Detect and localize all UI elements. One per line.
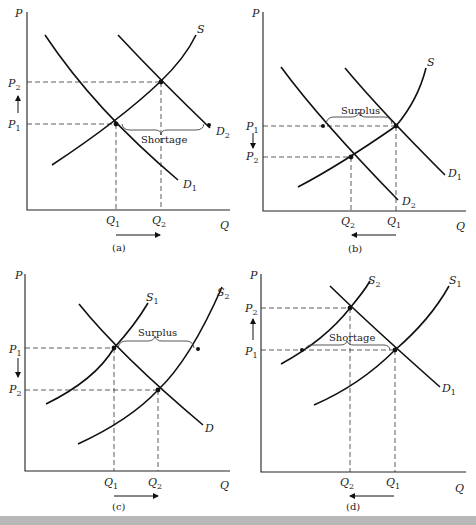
svg-text:S1: S1: [449, 274, 462, 289]
panel-a: P Q Shortage S D2 D1 P2 P1 Q1 Q2 (a): [7, 7, 230, 253]
caption-c: (c): [112, 501, 126, 512]
svg-text:Q1: Q1: [106, 214, 120, 229]
svg-text:P2: P2: [8, 383, 22, 398]
svg-text:D1: D1: [182, 178, 197, 193]
svg-text:D1: D1: [441, 382, 456, 397]
svg-text:P2: P2: [244, 302, 258, 317]
svg-text:P: P: [249, 269, 258, 282]
bottom-divider: [0, 516, 476, 525]
svg-text:Q: Q: [220, 479, 229, 492]
svg-text:Q2: Q2: [148, 476, 162, 491]
svg-text:Q: Q: [456, 220, 465, 233]
caption-d: (d): [346, 501, 360, 512]
svg-text:S: S: [427, 56, 435, 69]
svg-text:P: P: [251, 7, 260, 20]
surplus-label: Surplus: [138, 327, 177, 338]
svg-text:P: P: [14, 269, 23, 282]
panel-c: P Q Surplus S1 S2 D P1 P2 Q1 Q2 (c): [8, 269, 230, 512]
svg-text:P1: P1: [7, 118, 21, 133]
caption-b: (b): [348, 243, 362, 254]
svg-text:D: D: [204, 422, 214, 435]
svg-text:P2: P2: [7, 77, 21, 92]
caption-a: (a): [112, 242, 126, 253]
svg-text:S2: S2: [368, 274, 381, 289]
svg-text:Q2: Q2: [152, 214, 166, 229]
svg-text:Q2: Q2: [340, 476, 354, 491]
svg-text:Q: Q: [220, 219, 229, 232]
supply-demand-diagram: P Q Shortage S D2 D1 P2 P1 Q1 Q2 (a) P Q: [0, 0, 476, 525]
svg-text:Q1: Q1: [104, 476, 118, 491]
svg-text:P1: P1: [8, 343, 22, 358]
shortage-label: Shortage: [141, 134, 187, 145]
svg-text:P2: P2: [245, 150, 259, 165]
svg-text:S1: S1: [146, 291, 159, 306]
svg-text:P: P: [14, 7, 23, 20]
svg-text:Q1: Q1: [386, 476, 400, 491]
svg-text:D2: D2: [401, 195, 416, 210]
svg-text:S: S: [197, 23, 205, 36]
surplus-label: Surplus: [341, 105, 380, 116]
svg-text:P1: P1: [244, 345, 258, 360]
shortage-label: Shortage: [329, 332, 375, 343]
svg-text:D1: D1: [447, 167, 462, 182]
svg-text:Q2: Q2: [341, 215, 355, 230]
panel-b: P Q Surplus S D1 D2 P1 P2 Q2 Q1 (b): [245, 7, 466, 254]
svg-text:S2: S2: [217, 286, 230, 301]
svg-text:Q: Q: [455, 482, 464, 495]
svg-text:D2: D2: [215, 125, 230, 140]
svg-text:Q1: Q1: [387, 215, 401, 230]
svg-text:P1: P1: [245, 120, 259, 135]
panel-d: P Q Shortage S2 S1 D1 P2 P1 Q2 Q1 (d): [244, 269, 466, 512]
